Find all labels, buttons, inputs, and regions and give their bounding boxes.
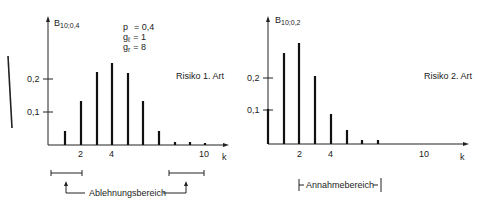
left-xtick-10: 10 bbox=[199, 149, 209, 159]
acceptance-label: Annahmebereich bbox=[306, 180, 374, 190]
right-xlabel: k bbox=[460, 152, 465, 162]
left-y-arrow-icon bbox=[46, 16, 50, 22]
right-bars bbox=[268, 43, 378, 144]
param-p: p= 0,4 bbox=[123, 22, 154, 32]
left-xtick-4: 4 bbox=[109, 149, 114, 159]
right-ylabel: B10;0,2 bbox=[275, 15, 301, 26]
param-gr: gr= 8 bbox=[123, 42, 146, 53]
rejection-arrow-left-icon bbox=[64, 181, 68, 186]
right-y-arrow-icon bbox=[266, 16, 270, 22]
right-ytick-02: 0,2 bbox=[247, 73, 260, 83]
left-xtick-2: 2 bbox=[78, 149, 83, 159]
rejection-label: Ablehnungsbereich bbox=[89, 188, 166, 198]
left-xlabel: k bbox=[222, 152, 227, 162]
right-xtick-2: 2 bbox=[297, 149, 302, 159]
right-x-arrow-icon bbox=[463, 142, 469, 146]
left-ytick-01: 0,1 bbox=[27, 107, 40, 117]
right-risk-label: Risiko 2. Art bbox=[424, 71, 473, 81]
right-chart: 0,2 0,1 B10;0,2 Risiko 2. Art 2 4 10 k A… bbox=[247, 15, 473, 192]
right-ytick-01: 0,1 bbox=[247, 105, 260, 115]
left-x-arrow-icon bbox=[223, 143, 229, 147]
right-xtick-10: 10 bbox=[419, 149, 429, 159]
rejection-arrow-right-icon bbox=[184, 181, 188, 186]
scan-edge bbox=[8, 56, 12, 128]
right-xtick-4: 4 bbox=[328, 149, 333, 159]
left-ytick-02: 0,2 bbox=[27, 74, 40, 84]
figure: 0,2 0,1 B10;0,4 p= 0,4 gℓ= 1 gr= 8 Risik… bbox=[0, 0, 479, 207]
left-risk-label: Risiko 1. Art bbox=[176, 71, 225, 81]
left-chart: 0,2 0,1 B10;0,4 p= 0,4 gℓ= 1 gr= 8 Risik… bbox=[27, 16, 229, 198]
left-ylabel: B10;0,4 bbox=[54, 18, 80, 29]
